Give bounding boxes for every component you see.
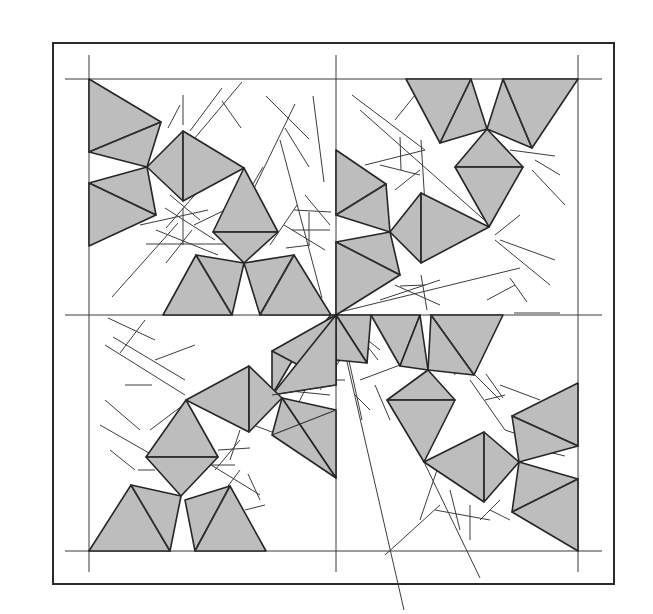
construction-line [500, 385, 540, 400]
construction-line [420, 470, 437, 520]
construction-line [421, 275, 427, 310]
construction-line [156, 230, 218, 255]
construction-line [352, 95, 425, 150]
triangle-tile [387, 370, 455, 400]
construction-line [365, 150, 425, 165]
construction-line [165, 208, 215, 240]
construction-line [510, 150, 555, 156]
construction-line [360, 365, 400, 380]
tiling-diagram [0, 0, 653, 614]
construction-line [113, 337, 185, 380]
construction-line [286, 245, 310, 248]
construction-line [245, 505, 265, 510]
construction-line [105, 400, 140, 430]
construction-line [450, 490, 460, 530]
construction-line [495, 215, 520, 235]
construction-line [395, 95, 415, 120]
construction-line [535, 160, 560, 175]
construction-line [490, 510, 510, 520]
construction-line [487, 285, 515, 300]
construction-line [400, 137, 401, 170]
construction-line [435, 510, 490, 520]
construction-line [248, 474, 260, 500]
construction-line [110, 450, 135, 470]
construction-line [166, 230, 192, 263]
construction-line [194, 82, 242, 139]
construction-line [495, 240, 550, 285]
construction-line [342, 340, 404, 610]
construction-line [500, 240, 555, 260]
construction-line [284, 225, 325, 250]
construction-line [168, 105, 180, 128]
construction-line [155, 345, 195, 360]
construction-line [285, 128, 309, 167]
construction-line [313, 96, 324, 182]
construction-line [532, 170, 565, 205]
construction-line [510, 278, 527, 302]
construction-line [105, 345, 185, 395]
construction-line [380, 165, 420, 175]
construction-line [108, 318, 155, 340]
construction-line [222, 101, 241, 128]
triangle-tile [484, 432, 519, 502]
construction-line [395, 170, 420, 190]
construction-line [385, 505, 440, 555]
construction-line [230, 430, 240, 460]
